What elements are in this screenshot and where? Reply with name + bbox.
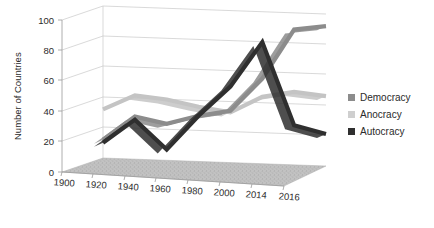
x-tick-label: 2016 (278, 190, 300, 202)
x-tick-label: 1940 (117, 180, 139, 192)
x-tick-label: 2014 (245, 188, 267, 200)
gridline-100 (62, 6, 326, 20)
y-tickmarks (58, 20, 62, 172)
legend-item-democracy[interactable]: Democracy (348, 92, 411, 103)
legend: Democracy Anocracy Autocracy (348, 92, 411, 137)
y-tick-label: 20 (43, 136, 54, 147)
x-tick-label: 1900 (53, 176, 75, 188)
legend-label-democracy: Democracy (360, 92, 411, 103)
y-tick-label: 100 (38, 15, 54, 26)
x-tick-label: 1920 (85, 178, 107, 190)
y-tick-label: 40 (43, 106, 54, 117)
x-tick-label: 2000 (213, 186, 235, 198)
x-tick-label: 1960 (149, 182, 171, 194)
chart-container: 100 80 60 40 20 0 Number of Countries 19… (0, 0, 434, 228)
x-tick-label: 1980 (181, 184, 203, 196)
legend-label-anocracy: Anocracy (360, 109, 402, 120)
gridline-60 (62, 66, 326, 80)
legend-item-anocracy[interactable]: Anocracy (348, 109, 402, 120)
legend-item-autocracy[interactable]: Autocracy (348, 126, 404, 137)
y-tick-label: 80 (43, 45, 54, 56)
legend-marker-anocracy (348, 111, 355, 118)
y-tick-label: 60 (43, 75, 54, 86)
line-chart-3d: 100 80 60 40 20 0 Number of Countries 19… (0, 0, 434, 228)
legend-label-autocracy: Autocracy (360, 126, 404, 137)
y-axis-title: Number of Countries (12, 52, 23, 140)
series-group (94, 26, 326, 153)
legend-marker-democracy (348, 94, 355, 101)
y-tick-labels: 100 80 60 40 20 0 (38, 15, 54, 178)
legend-marker-autocracy (348, 128, 355, 135)
